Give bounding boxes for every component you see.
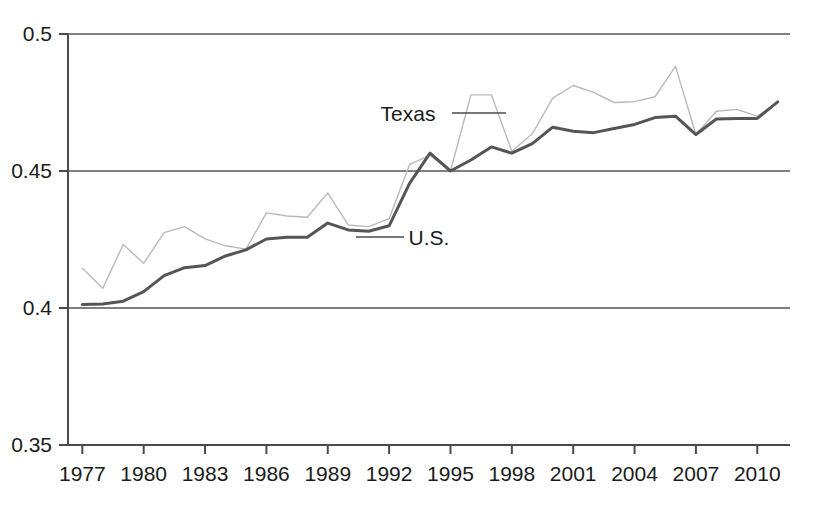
chart-canvas: TexasU.S. 0.350.40.450.5 197719801983198…: [0, 0, 821, 516]
series-line-u-s: [82, 102, 777, 304]
y-axis-tick-label: 0.35: [11, 433, 52, 456]
x-axis-tick-labels: 1977198019831986198919921995199820012004…: [59, 462, 781, 485]
x-axis-tick-label: 2010: [734, 462, 781, 485]
y-axis-ticks-group: [59, 34, 68, 445]
y-axis-tick-label: 0.5: [23, 22, 52, 45]
y-axis-tick-label: 0.45: [11, 159, 52, 182]
line-chart: TexasU.S. 0.350.40.450.5 197719801983198…: [0, 0, 821, 516]
y-axis-tick-label: 0.4: [23, 296, 53, 319]
series-annotation-label-u-s: U.S.: [409, 226, 450, 249]
x-axis-tick-label: 1983: [182, 462, 229, 485]
gridlines-group: [68, 34, 790, 308]
x-axis-tick-label: 2004: [611, 462, 658, 485]
y-axis-tick-labels: 0.350.40.450.5: [11, 22, 52, 456]
x-axis-tick-label: 1980: [120, 462, 167, 485]
x-axis-tick-label: 1995: [427, 462, 474, 485]
series-annotation-label-texas: Texas: [381, 102, 436, 125]
x-axis-tick-label: 1989: [304, 462, 351, 485]
annotations-group: TexasU.S.: [356, 102, 506, 249]
x-axis-tick-label: 1998: [488, 462, 535, 485]
x-axis-tick-label: 1992: [366, 462, 413, 485]
x-axis-tick-label: 1977: [59, 462, 106, 485]
series-line-texas: [82, 66, 777, 288]
x-axis-tick-label: 2001: [550, 462, 597, 485]
x-axis-tick-label: 1986: [243, 462, 290, 485]
x-axis-ticks-group: [82, 445, 757, 454]
x-axis-tick-label: 2007: [673, 462, 720, 485]
